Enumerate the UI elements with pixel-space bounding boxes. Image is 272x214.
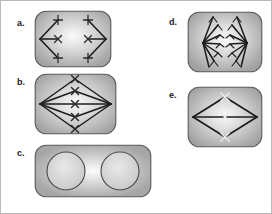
- cell-b-svg: [34, 73, 117, 135]
- panel-label-a: a.: [17, 19, 25, 28]
- cell-c-svg: [34, 144, 152, 198]
- panel-b-metaphase: [34, 73, 117, 135]
- daughter-nucleus-right: [101, 152, 139, 190]
- cell-a-svg: [34, 10, 112, 68]
- panel-label-b: b.: [17, 78, 25, 87]
- panel-label-d: d.: [169, 18, 177, 27]
- panel-e-prometaphase: [187, 86, 263, 148]
- cell-d-svg: [187, 11, 263, 73]
- panel-label-c: c.: [17, 149, 25, 158]
- cell-e-svg: [187, 86, 263, 148]
- cell-membrane-d: [188, 12, 262, 72]
- panel-label-e: e.: [169, 91, 177, 100]
- mitosis-figure: a.: [0, 0, 272, 214]
- panel-c-telophase: [34, 144, 152, 198]
- daughter-nucleus-left: [47, 152, 85, 190]
- panel-a-anaphase: [34, 10, 112, 68]
- panel-d-late-anaphase: [187, 11, 263, 73]
